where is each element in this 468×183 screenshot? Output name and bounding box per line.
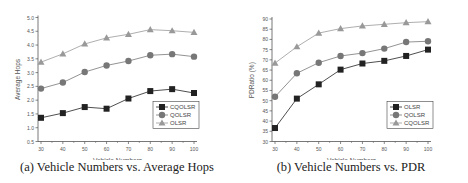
x-tick-label: 100 bbox=[190, 146, 199, 152]
y-tick-label: 90 bbox=[262, 16, 268, 22]
square-marker-icon bbox=[60, 110, 66, 116]
y-tick-label: 85 bbox=[262, 26, 268, 32]
legend-label: OLSR bbox=[404, 104, 421, 110]
square-legend-icon bbox=[393, 104, 399, 110]
y-tick-label: 50 bbox=[262, 98, 268, 104]
square-marker-icon bbox=[294, 96, 300, 102]
series-olsr bbox=[38, 26, 198, 65]
y-tick-label: 70 bbox=[262, 57, 268, 63]
y-tick-label: 3.5 bbox=[27, 56, 34, 62]
circle-legend-icon bbox=[393, 112, 399, 118]
y-tick-label: 40 bbox=[262, 118, 268, 124]
square-marker-icon bbox=[403, 53, 409, 59]
y-tick-label: 4.0 bbox=[27, 42, 34, 48]
circle-marker-icon bbox=[60, 79, 66, 85]
circle-marker-icon bbox=[359, 50, 365, 56]
square-marker-icon bbox=[125, 96, 131, 102]
chart-panel-b: 3035404550556065707580859030405060708090… bbox=[234, 0, 468, 183]
circle-marker-icon bbox=[425, 38, 431, 44]
square-marker-icon bbox=[82, 104, 88, 110]
circle-marker-icon bbox=[381, 45, 387, 51]
x-tick-label: 30 bbox=[272, 146, 278, 152]
square-marker-icon bbox=[338, 67, 344, 73]
circle-marker-icon bbox=[103, 62, 109, 68]
line-chart-pdr: 3035404550556065707580859030405060708090… bbox=[234, 0, 468, 160]
y-tick-label: 0.5 bbox=[27, 139, 34, 145]
circle-marker-icon bbox=[337, 53, 343, 59]
triangle-marker-icon bbox=[59, 50, 66, 56]
y-tick-label: 75 bbox=[262, 47, 268, 53]
y-tick-label: 5.0 bbox=[27, 15, 34, 21]
square-marker-icon bbox=[38, 115, 44, 121]
caption-b: (b) Vehicle Numbers vs. PDR bbox=[234, 160, 468, 175]
circle-marker-icon bbox=[38, 85, 44, 91]
x-tick-label: 50 bbox=[316, 146, 322, 152]
legend-label: QOLSR bbox=[170, 112, 192, 118]
y-tick-label: 35 bbox=[262, 128, 268, 134]
circle-marker-icon bbox=[272, 94, 278, 100]
legend-label: CQOLSR bbox=[170, 104, 196, 110]
y-tick-label: 45 bbox=[262, 108, 268, 114]
triangle-marker-icon bbox=[147, 26, 154, 32]
square-marker-icon bbox=[316, 81, 322, 87]
line-chart-average-hops: 0.51.01.52.02.53.03.54.04.55.03040506070… bbox=[0, 0, 234, 160]
x-tick-label: 30 bbox=[38, 146, 44, 152]
x-tick-label: 90 bbox=[403, 146, 409, 152]
square-marker-icon bbox=[191, 90, 197, 96]
circle-marker-icon bbox=[316, 59, 322, 65]
square-legend-icon bbox=[159, 104, 165, 110]
y-tick-label: 65 bbox=[262, 67, 268, 73]
x-tick-label: 70 bbox=[360, 146, 366, 152]
square-marker-icon bbox=[381, 58, 387, 64]
y-tick-label: 60 bbox=[262, 77, 268, 83]
caption-a: (a) Vehicle Numbers vs. Average Hops bbox=[0, 160, 234, 175]
legend: OLSRQOLSRCQOLSR bbox=[387, 102, 433, 129]
y-axis-label: Average Hops bbox=[14, 58, 22, 100]
square-marker-icon bbox=[169, 86, 175, 92]
square-marker-icon bbox=[425, 47, 431, 53]
square-marker-icon bbox=[359, 61, 365, 67]
x-tick-label: 60 bbox=[338, 146, 344, 152]
triangle-marker-icon bbox=[425, 18, 432, 24]
x-tick-label: 40 bbox=[60, 146, 66, 152]
y-axis-label: PDRatio (%) bbox=[248, 62, 256, 98]
x-tick-label: 50 bbox=[82, 146, 88, 152]
y-tick-label: 4.5 bbox=[27, 28, 34, 34]
series-qolsr bbox=[38, 51, 197, 92]
triangle-marker-icon bbox=[293, 43, 300, 49]
square-marker-icon bbox=[272, 125, 278, 131]
y-tick-label: 2.5 bbox=[27, 83, 34, 89]
x-tick-label: 60 bbox=[104, 146, 110, 152]
x-tick-label: 40 bbox=[294, 146, 300, 152]
circle-marker-icon bbox=[169, 51, 175, 57]
circle-marker-icon bbox=[82, 69, 88, 75]
y-tick-label: 80 bbox=[262, 36, 268, 42]
x-tick-label: 80 bbox=[382, 146, 388, 152]
square-marker-icon bbox=[104, 106, 110, 112]
y-tick-label: 2.0 bbox=[27, 97, 34, 103]
chart-panel-a: 0.51.01.52.02.53.03.54.04.55.03040506070… bbox=[0, 0, 234, 183]
y-tick-label: 55 bbox=[262, 87, 268, 93]
circle-marker-icon bbox=[294, 70, 300, 76]
x-tick-label: 70 bbox=[126, 146, 132, 152]
x-tick-label: 90 bbox=[169, 146, 175, 152]
circle-marker-icon bbox=[403, 39, 409, 45]
circle-legend-icon bbox=[159, 112, 165, 118]
x-tick-label: 100 bbox=[424, 146, 433, 152]
legend: CQOLSRQOLSROLSR bbox=[153, 102, 199, 129]
circle-marker-icon bbox=[125, 58, 131, 64]
legend-label: CQOLSR bbox=[404, 120, 430, 126]
y-tick-label: 3.0 bbox=[27, 70, 34, 76]
circle-marker-icon bbox=[147, 52, 153, 58]
y-tick-label: 1.5 bbox=[27, 111, 34, 117]
circle-marker-icon bbox=[191, 53, 197, 59]
y-tick-label: 30 bbox=[262, 139, 268, 145]
y-tick-label: 1.0 bbox=[27, 125, 34, 131]
square-marker-icon bbox=[147, 88, 153, 94]
legend-label: QOLSR bbox=[404, 112, 426, 118]
triangle-marker-icon bbox=[272, 60, 279, 66]
legend-label: OLSR bbox=[170, 120, 187, 126]
x-tick-label: 80 bbox=[148, 146, 154, 152]
